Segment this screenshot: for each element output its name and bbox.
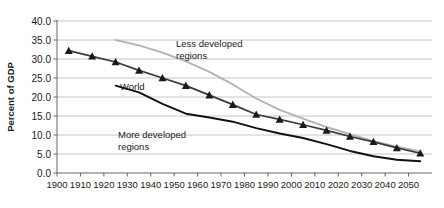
y-tick-label: 5.0 bbox=[37, 149, 51, 160]
x-tick-label: 2040 bbox=[375, 179, 396, 190]
x-tick-label: 1950 bbox=[164, 179, 185, 190]
y-tick-label: 30.0 bbox=[32, 54, 52, 65]
y-tick-label: 15.0 bbox=[32, 111, 52, 122]
x-tick-label: 1960 bbox=[187, 179, 208, 190]
x-tick-label: 1990 bbox=[257, 179, 278, 190]
chart-figure: 0.05.010.015.020.025.030.035.040.0 19001… bbox=[0, 0, 444, 208]
gridlines-group bbox=[57, 21, 432, 154]
x-tick-label: 2050 bbox=[398, 179, 419, 190]
y-axis-title: Percent of GDP bbox=[5, 61, 16, 131]
x-tick-label: 2020 bbox=[328, 179, 349, 190]
series-annotation-world: World bbox=[120, 81, 145, 92]
y-tick-labels-group: 0.05.010.015.020.025.030.035.040.0 bbox=[32, 16, 52, 179]
y-tick-label: 25.0 bbox=[32, 73, 52, 84]
x-tick-label: 2030 bbox=[351, 179, 372, 190]
x-tick-label: 1930 bbox=[117, 179, 138, 190]
y-tick-label: 40.0 bbox=[32, 16, 52, 27]
series-annotation-more-developed: More developedregions bbox=[118, 129, 186, 152]
series-marker bbox=[65, 47, 73, 54]
series-annotation-less-developed: Less developedregions bbox=[176, 38, 243, 61]
x-tick-labels-group: 1900191019201930194019501960197019801990… bbox=[46, 179, 419, 190]
y-tick-label: 10.0 bbox=[32, 130, 52, 141]
x-tick-label: 1920 bbox=[93, 179, 114, 190]
x-tick-label: 1980 bbox=[234, 179, 255, 190]
percent-of-gdp-line-chart: 0.05.010.015.020.025.030.035.040.0 19001… bbox=[0, 0, 444, 208]
x-tick-label: 1970 bbox=[210, 179, 231, 190]
x-tick-label: 1940 bbox=[140, 179, 161, 190]
y-tick-label: 20.0 bbox=[32, 92, 52, 103]
y-tick-label: 0.0 bbox=[37, 168, 51, 179]
x-tick-label: 2000 bbox=[281, 179, 302, 190]
axes-group bbox=[54, 20, 433, 177]
y-tick-label: 35.0 bbox=[32, 35, 52, 46]
x-tick-label: 1910 bbox=[70, 179, 91, 190]
x-tick-label: 2010 bbox=[304, 179, 325, 190]
x-tick-label: 1900 bbox=[46, 179, 67, 190]
